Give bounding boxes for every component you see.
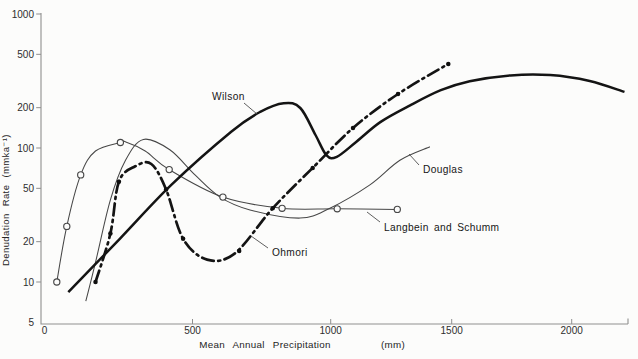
chart-canvas: 100050020010050201050500100015002000 Wil… — [0, 0, 638, 359]
curve-langbein-and-schumm — [57, 141, 398, 282]
data-point-open-circle — [394, 206, 400, 212]
data-point-dot — [351, 126, 356, 131]
y-tick-label: 5 — [28, 317, 34, 328]
x-tick-label: 1000 — [320, 325, 343, 336]
axes: 100050020010050201050500100015002000 — [12, 9, 628, 336]
data-point-dot — [181, 237, 186, 242]
data-point-dot — [108, 231, 113, 236]
data-point-dot — [93, 280, 98, 285]
denudation-rate-chart: 100050020010050201050500100015002000 Wil… — [0, 0, 638, 359]
leader-line-wilson — [244, 103, 257, 114]
data-point-dot — [164, 187, 169, 192]
y-tick-label: 20 — [23, 236, 35, 247]
y-tick-label: 10 — [23, 277, 35, 288]
data-point-open-circle — [334, 206, 340, 212]
leader-line-langbein-and-schumm — [367, 212, 380, 222]
leader-line-ohmori — [251, 236, 268, 248]
x-tick-label: 2000 — [561, 325, 584, 336]
data-point-dot — [237, 249, 242, 254]
data-point-open-circle — [78, 172, 84, 178]
curve-wilson — [68, 75, 624, 293]
y-tick-label: 100 — [17, 143, 34, 154]
y-tick-label: 1000 — [12, 9, 35, 20]
data-point-open-circle — [64, 223, 70, 229]
y-tick-label: 200 — [17, 102, 34, 113]
leader-line-douglas — [409, 154, 419, 165]
x-tick-label: 1500 — [441, 325, 464, 336]
data-point-open-circle — [279, 205, 285, 211]
curve-label-ohmori: Ohmori — [272, 247, 308, 258]
y-tick-label: 500 — [17, 49, 34, 60]
data-point-open-circle — [117, 139, 123, 145]
x-axis-title: Mean Annual Precipitation — [199, 339, 330, 350]
x-axis-unit-label: (mm) — [381, 339, 405, 350]
data-point-open-circle — [220, 194, 226, 200]
x-tick-label: 0 — [42, 325, 48, 336]
y-axis-title: Denudation Rate (mmka⁻¹) — [0, 134, 11, 266]
curve-label-douglas: Douglas — [423, 164, 463, 175]
data-point-open-circle — [54, 279, 60, 285]
data-point-dot — [310, 166, 315, 171]
x-tick-label: 500 — [184, 325, 201, 336]
data-point-dot — [270, 206, 275, 211]
y-tick-label: 50 — [23, 183, 35, 194]
curve-label-langbein-and-schumm: Langbein and Schumm — [384, 222, 499, 233]
curves — [54, 62, 625, 301]
data-point-dot — [117, 179, 122, 184]
data-point-dot — [446, 62, 451, 67]
data-point-dot — [396, 92, 401, 97]
curve-label-wilson: Wilson — [212, 91, 245, 102]
data-point-open-circle — [166, 167, 172, 173]
